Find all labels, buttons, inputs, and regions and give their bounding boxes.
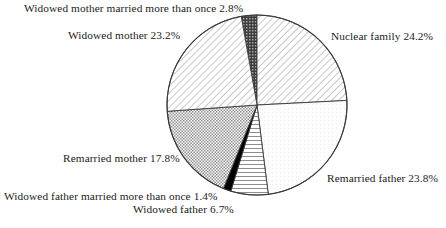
pie-label-remarried-father: Remarried father 23.8% xyxy=(327,172,438,185)
pie-slice[interactable] xyxy=(257,15,347,105)
pie-label-widowed-father: Widowed father 6.7% xyxy=(133,203,234,216)
pie-slices-group xyxy=(167,15,347,195)
pie-label-widowed-father-married-more-than-once: Widowed father married more than once 1.… xyxy=(4,190,218,203)
pie-label-remarried-mother: Remarried mother 17.8% xyxy=(63,152,180,165)
pie-label-widowed-mother-married-more-than-once: Widowed mother married more than once 2.… xyxy=(24,2,243,15)
pie-chart-figure: Widowed mother married more than once 2.… xyxy=(0,0,446,228)
pie-slice[interactable] xyxy=(167,16,257,111)
pie-label-nuclear-family: Nuclear family 24.2% xyxy=(331,30,433,43)
pie-label-widowed-mother: Widowed mother 23.2% xyxy=(68,29,180,42)
